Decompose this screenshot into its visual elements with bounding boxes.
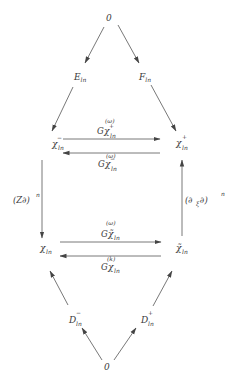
svg-text:χ: χ <box>107 262 114 272</box>
node-chi-minus-ln: χ − ln <box>51 134 64 151</box>
label-G-chi-minus: G χ − ln (ω) <box>98 152 117 172</box>
svg-text:−: − <box>57 134 62 141</box>
svg-text:(ω): (ω) <box>105 117 115 124</box>
svg-text:ln: ln <box>110 132 116 139</box>
svg-text:∂): ∂) <box>200 195 208 205</box>
node-D-minus-ln: D − ln <box>68 309 82 327</box>
svg-text:ln: ln <box>111 165 117 172</box>
commutative-diagram: 0 Eln Fln χ − ln χ + ln χ ln χ̃ ln D − l… <box>0 0 229 386</box>
svg-text:χ̃: χ̃ <box>107 229 114 239</box>
svg-text:ln: ln <box>58 144 64 151</box>
svg-text:Eln: Eln <box>73 72 86 83</box>
svg-text:n: n <box>36 191 40 198</box>
svg-text:ln: ln <box>182 248 188 255</box>
arrow-D-minus-to-chi <box>50 271 68 305</box>
node-D-plus-ln: D + ln <box>140 309 154 327</box>
label-left-vertical-Z-partial-n: (Z∂) n <box>13 191 40 205</box>
arrow-F-to-chi-plus <box>151 85 176 131</box>
svg-text:0: 0 <box>104 362 110 372</box>
node-F-ln: Fln <box>138 72 151 83</box>
svg-text:ln: ln <box>76 320 82 327</box>
svg-text:n: n <box>221 190 225 197</box>
svg-text:ln: ln <box>114 234 120 241</box>
svg-text:(∂: (∂ <box>185 195 193 205</box>
svg-text:χ: χ <box>175 138 182 148</box>
arrow-zero-to-D-minus <box>82 328 102 360</box>
svg-text:ln: ln <box>182 144 188 151</box>
svg-text:G: G <box>101 262 108 272</box>
svg-text:ln: ln <box>114 267 120 274</box>
svg-text:(ω): (ω) <box>106 152 116 159</box>
node-chi-tilde-ln: χ̃ ln <box>175 243 188 255</box>
label-G-chi-plus: G χ + ln (ω) <box>97 117 116 139</box>
node-top-zero: 0 <box>106 13 112 23</box>
svg-text:ln: ln <box>148 320 154 327</box>
label-G-chi: G χ ln (k) <box>101 255 120 274</box>
node-bottom-zero: 0 <box>104 362 110 372</box>
svg-text:(Z∂): (Z∂) <box>13 195 30 205</box>
svg-text:0: 0 <box>106 13 112 23</box>
node-chi-plus-ln: χ + ln <box>175 133 188 151</box>
svg-text:D: D <box>68 315 76 325</box>
svg-text:(k): (k) <box>107 255 116 262</box>
svg-text:G: G <box>101 229 108 239</box>
svg-text:χ̃: χ̃ <box>175 243 182 253</box>
svg-text:Fln: Fln <box>138 72 151 83</box>
svg-text:G: G <box>98 159 105 169</box>
svg-text:+: + <box>148 309 153 316</box>
svg-text:−: − <box>76 309 81 316</box>
label-right-vertical-partial-xi-partial-n: (∂ ξ ∂) n <box>185 190 225 208</box>
svg-text:χ: χ <box>39 243 46 253</box>
node-E-ln: Eln <box>73 72 86 83</box>
arrow-zero-to-F <box>118 25 139 63</box>
svg-text:D: D <box>140 315 148 325</box>
arrow-zero-to-E <box>85 27 104 63</box>
arrow-D-plus-to-chi-tilde <box>153 271 172 306</box>
arrow-zero-to-D-plus <box>114 328 136 360</box>
svg-text:ln: ln <box>46 248 52 255</box>
arrow-E-to-chi-minus <box>52 87 73 131</box>
svg-text:G: G <box>97 126 104 136</box>
svg-text:(ω): (ω) <box>106 219 116 226</box>
label-G-chi-tilde: G χ̃ ln (ω) <box>101 219 120 241</box>
svg-text:+: + <box>182 133 187 140</box>
node-chi-ln: χ ln <box>39 243 52 255</box>
